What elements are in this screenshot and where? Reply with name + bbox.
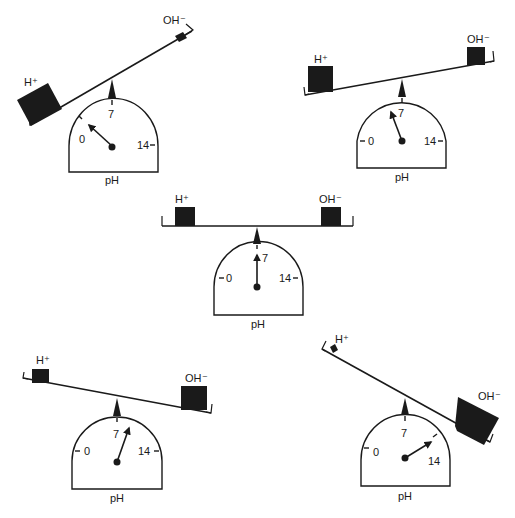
oh-ion-label: OH⁻ bbox=[319, 193, 342, 205]
tick-label-14: 14 bbox=[137, 139, 149, 151]
ph-unit-label: pH bbox=[110, 492, 124, 504]
tick-label-14: 14 bbox=[428, 455, 440, 467]
ph-balance-diagram: H⁺ OH⁻ 7 0 14 pH H⁺ OH⁻ bbox=[0, 0, 515, 518]
pivot-fulcrum bbox=[108, 79, 116, 98]
h-ion-label: H⁺ bbox=[335, 333, 349, 345]
tick-label-7: 7 bbox=[398, 107, 404, 119]
h-ion-label: H⁺ bbox=[314, 53, 328, 65]
h-ion-label: H⁺ bbox=[175, 193, 189, 205]
scale-slightly-acidic: H⁺ OH⁻ 7 0 14 pH bbox=[304, 33, 494, 183]
ph-unit-label: pH bbox=[398, 490, 412, 502]
needle-pointer bbox=[89, 125, 112, 146]
tick-label-0: 0 bbox=[373, 446, 379, 458]
tick-label-14: 14 bbox=[279, 272, 291, 284]
tick-label-7: 7 bbox=[108, 108, 114, 120]
ph-unit-label: pH bbox=[251, 318, 265, 330]
pivot-fulcrum bbox=[401, 398, 409, 415]
tick-label-7: 7 bbox=[262, 252, 268, 264]
tick-label-0: 0 bbox=[79, 133, 85, 145]
scale-neutral: H⁺ OH⁻ 7 0 14 pH bbox=[162, 193, 353, 330]
scale-slightly-basic: H⁺ OH⁻ 7 0 14 pH bbox=[23, 354, 212, 504]
scale-very-basic: H⁺ OH⁻ 7 0 14 pH bbox=[322, 333, 501, 502]
h-ion-label: H⁺ bbox=[36, 354, 50, 366]
h-ion-weight bbox=[17, 83, 62, 126]
tick-label-7: 7 bbox=[113, 428, 119, 440]
oh-ion-weight bbox=[181, 386, 207, 410]
h-ion-weight bbox=[175, 207, 195, 226]
oh-ion-label: OH⁻ bbox=[478, 390, 501, 402]
scale-very-acidic: H⁺ OH⁻ 7 0 14 pH bbox=[17, 14, 193, 186]
ph-unit-label: pH bbox=[395, 171, 409, 183]
oh-ion-weight bbox=[321, 207, 341, 226]
tick-label-7: 7 bbox=[401, 427, 407, 439]
oh-ion-label: OH⁻ bbox=[185, 372, 208, 384]
h-ion-weight bbox=[32, 369, 49, 383]
ph-unit-label: pH bbox=[105, 174, 119, 186]
tick-label-0: 0 bbox=[84, 445, 90, 457]
pivot-fulcrum bbox=[113, 398, 121, 416]
tick-label-0: 0 bbox=[226, 272, 232, 284]
pivot-fulcrum bbox=[398, 79, 406, 97]
h-ion-weight bbox=[308, 66, 333, 92]
tick-label-14: 14 bbox=[138, 445, 150, 457]
oh-ion-label: OH⁻ bbox=[163, 14, 186, 26]
tick-label-14: 14 bbox=[424, 135, 436, 147]
oh-ion-weight bbox=[467, 47, 485, 65]
h-ion-weight bbox=[330, 344, 338, 353]
oh-ion-weight bbox=[455, 397, 499, 445]
oh-ion-label: OH⁻ bbox=[467, 33, 490, 45]
h-ion-label: H⁺ bbox=[24, 76, 38, 88]
tick-label-0: 0 bbox=[368, 135, 374, 147]
